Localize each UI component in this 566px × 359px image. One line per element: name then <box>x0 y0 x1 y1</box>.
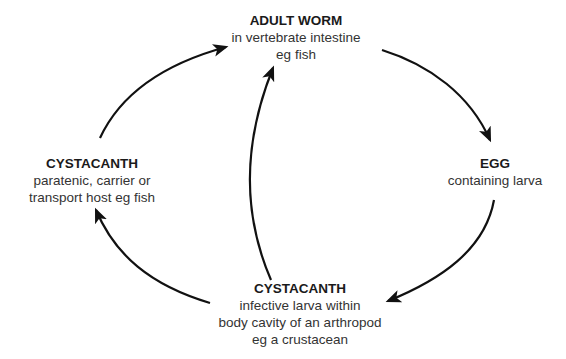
arrow-paratenic-to-adult <box>100 47 226 138</box>
arrow-arthropod-to-adult <box>250 68 273 280</box>
node-line: paratenic, carrier or <box>17 172 167 189</box>
arrow-arthropod-to-paratenic <box>96 210 210 303</box>
node-title: CYSTACANTH <box>17 155 167 172</box>
node-line: in vertebrate intestine <box>216 29 376 46</box>
node-line: containing larva <box>435 172 555 189</box>
node-title: EGG <box>435 155 555 172</box>
arrow-egg-to-arthropod <box>388 200 494 301</box>
arrow-adult-to-egg <box>382 50 490 140</box>
node-cystacanth-arthropod: CYSTACANTH infective larva within body c… <box>210 280 390 348</box>
node-line: eg fish <box>216 46 376 63</box>
node-adult-worm: ADULT WORM in vertebrate intestine eg fi… <box>216 12 376 63</box>
node-title: ADULT WORM <box>216 12 376 29</box>
node-line: body cavity of an arthropod <box>210 314 390 331</box>
node-title: CYSTACANTH <box>210 280 390 297</box>
node-line: eg a crustacean <box>210 331 390 348</box>
node-egg: EGG containing larva <box>435 155 555 189</box>
node-cystacanth-paratenic: CYSTACANTH paratenic, carrier or transpo… <box>17 155 167 206</box>
node-line: infective larva within <box>210 297 390 314</box>
node-line: transport host eg fish <box>17 189 167 206</box>
